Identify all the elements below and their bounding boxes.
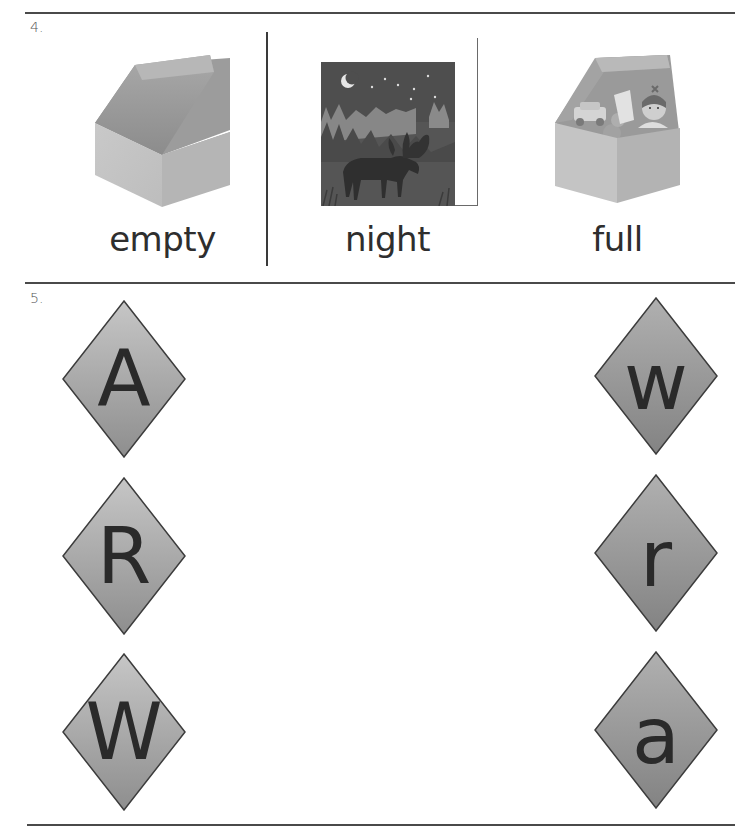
toy-box-full-icon [552, 50, 692, 210]
empty-box-picture[interactable] [90, 50, 240, 215]
bottom-rule-line [27, 824, 735, 826]
word-full: full [545, 219, 690, 259]
letter-diamond-uppercase-w[interactable]: W [62, 653, 186, 811]
diamond-letter: W [62, 653, 186, 811]
picture-frame-edge [455, 205, 478, 206]
diamond-letter: r [594, 474, 718, 632]
diamond-letter: a [594, 651, 718, 809]
night-scene-picture[interactable] [321, 62, 455, 206]
top-rule-line [25, 12, 735, 14]
letter-diamond-lowercase-a[interactable]: a [594, 651, 718, 809]
night-moose-scene [321, 62, 455, 206]
exercise-number-4: 4. [30, 19, 43, 35]
letter-diamond-lowercase-w[interactable]: w [594, 297, 718, 455]
diamond-letter: R [62, 477, 186, 635]
word-empty: empty [90, 219, 235, 259]
column-divider [266, 32, 268, 266]
exercise-number-5: 5. [30, 290, 43, 306]
letter-diamond-uppercase-a[interactable]: A [62, 300, 186, 458]
letter-diamond-lowercase-r[interactable]: r [594, 474, 718, 632]
section-rule-line [25, 282, 735, 284]
full-box-picture[interactable] [552, 50, 692, 210]
empty-box-icon [90, 50, 240, 215]
diamond-letter: A [62, 300, 186, 458]
word-night: night [315, 219, 460, 259]
picture-frame-edge [477, 38, 478, 206]
letter-diamond-uppercase-r[interactable]: R [62, 477, 186, 635]
diamond-letter: w [594, 297, 718, 455]
